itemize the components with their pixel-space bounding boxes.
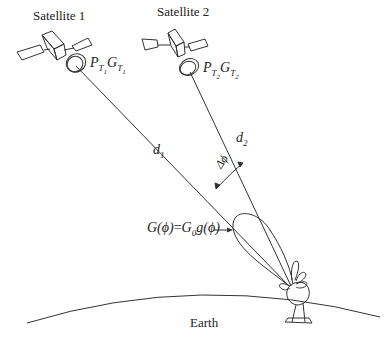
diagram-drawing — [0, 0, 388, 338]
satellite-2-label: Satellite 2 — [157, 4, 209, 20]
satellite-1-label: Satellite 1 — [33, 8, 85, 24]
distance-d2-label: d2 — [236, 130, 248, 148]
earth-label: Earth — [190, 315, 218, 331]
antenna-gain-equation-label: G(ϕ)=G0g(ϕ) — [147, 220, 220, 238]
satellite-2-power-gain-label: PT2GT2 — [203, 60, 239, 81]
satellite-interference-diagram: Satellite 1 Satellite 2 PT1GT1 PT2GT2 d1… — [0, 0, 388, 338]
antenna-side-lobes-icon — [279, 261, 306, 290]
path-d1-line — [76, 66, 289, 286]
satellite-1-power-gain-label: PT1GT1 — [90, 55, 126, 76]
satellite-1-icon — [17, 31, 92, 76]
satellite-2-icon — [142, 29, 208, 78]
path-d2-line — [190, 72, 291, 286]
distance-d1-label: d1 — [153, 142, 165, 160]
antenna-main-lobe-icon — [233, 214, 293, 286]
